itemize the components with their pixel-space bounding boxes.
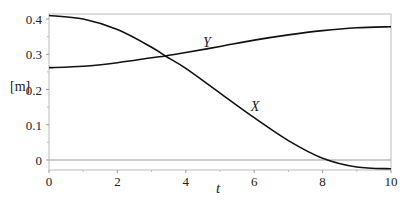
series-Y: [49, 27, 391, 68]
x-tick-label: 6: [251, 174, 258, 189]
x-axis-label: t: [216, 180, 221, 196]
y-axis-label: [m]: [10, 79, 30, 94]
y-tick-label: 0: [36, 153, 43, 168]
y-tick-label: 0.3: [26, 47, 42, 62]
curve-label-X: X: [250, 99, 260, 114]
series-lines: [49, 15, 391, 168]
line-chart: 00.10.20.30.4 0246810 YX [m] t: [0, 0, 409, 204]
x-tick-label: 2: [114, 174, 121, 189]
y-tick-label: 0.4: [26, 12, 43, 27]
plot-frame: [49, 14, 391, 170]
series-X: [49, 15, 391, 168]
x-tick-label: 8: [319, 174, 326, 189]
x-tick-label: 0: [46, 174, 53, 189]
y-tick-label: 0.1: [26, 118, 42, 133]
x-tick-label: 4: [183, 174, 190, 189]
x-axis: 0246810: [46, 170, 398, 189]
x-tick-label: 10: [385, 174, 398, 189]
